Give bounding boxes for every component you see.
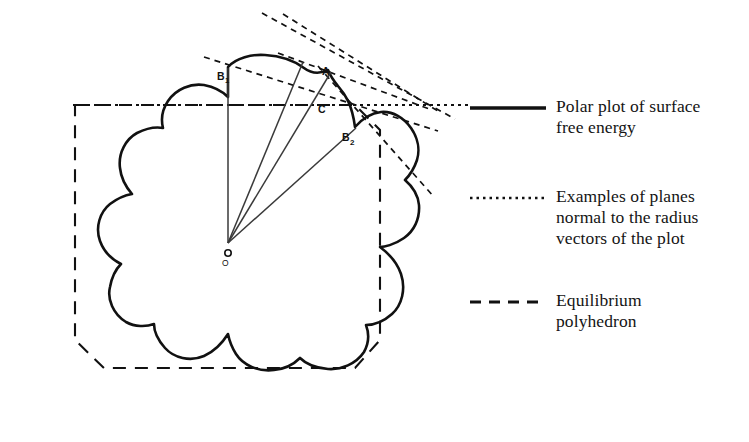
normal-plane-tangent-5 xyxy=(318,66,434,197)
figure-root: B 1 A C B 2 O Polar plot of surface free… xyxy=(0,0,749,442)
radius-vector-c xyxy=(228,72,331,243)
svg-text:B: B xyxy=(342,131,350,143)
point-label-b2: B 2 xyxy=(342,131,355,147)
legend-label-normal-planes: Examples of planes normal to the radius … xyxy=(556,186,746,249)
svg-text:B: B xyxy=(217,70,225,82)
radius-vector-a xyxy=(228,62,303,243)
normal-plane-tangent-4 xyxy=(278,53,432,110)
legend-label-equilibrium-polyhedron: Equilibrium polyhedron xyxy=(556,290,746,332)
normal-plane-tangent-2 xyxy=(283,14,441,113)
legend-label-polar-plot: Polar plot of surface free energy xyxy=(556,96,746,138)
radius-vector-b2 xyxy=(228,128,356,243)
polar-plot-curve xyxy=(98,55,419,370)
point-label-a: A xyxy=(322,65,330,77)
svg-text:2: 2 xyxy=(350,138,355,147)
svg-text:1: 1 xyxy=(225,76,229,85)
origin-marker xyxy=(225,250,231,256)
origin-label: O xyxy=(222,258,229,268)
point-label-c: C xyxy=(318,103,326,115)
